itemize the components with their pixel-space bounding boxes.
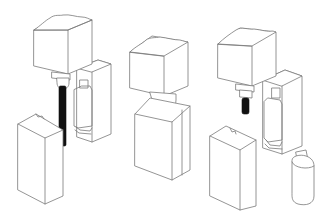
stage-3 (210, 28, 314, 210)
rear-mold-half-with-cavity (263, 70, 302, 154)
mold-head-block (218, 28, 276, 86)
front-mold-half (210, 126, 256, 210)
mold-head-block (34, 15, 92, 74)
diagram-canvas: technical line illustration (0, 0, 334, 219)
ejected-bottle (292, 150, 314, 205)
core-collar (240, 90, 252, 98)
core-rod-short (242, 98, 249, 114)
front-mold-half (18, 114, 63, 204)
closed-mold-block (135, 98, 190, 180)
stage-1 (18, 15, 111, 204)
mold-head-block (130, 36, 188, 96)
rear-mold-half-with-cavity (74, 60, 111, 142)
stage-2 (130, 36, 190, 180)
